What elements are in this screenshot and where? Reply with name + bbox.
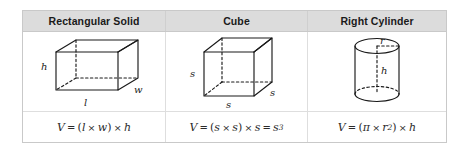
formula-lhs: V bbox=[57, 121, 65, 134]
formula-term-h: h bbox=[409, 121, 416, 134]
volume-formulas-figure: Rectangular Solid Cube Right Cylinder bbox=[0, 0, 463, 152]
formula-times-2: × bbox=[399, 122, 407, 133]
formula-cube: V = ( s × s ) × s = s3 bbox=[165, 112, 307, 142]
formula-result-exponent: 3 bbox=[279, 123, 284, 132]
label-w: w bbox=[134, 84, 143, 95]
header-right-cylinder: Right Cylinder bbox=[307, 11, 446, 31]
label-l: l bbox=[84, 97, 87, 108]
label-s-width: s bbox=[226, 99, 231, 110]
cube-diagram: s s s bbox=[182, 34, 292, 110]
volume-formulas-table: Rectangular Solid Cube Right Cylinder bbox=[22, 10, 447, 143]
label-h: h bbox=[41, 61, 47, 72]
figure-cell-right-cylinder: r h bbox=[307, 32, 446, 111]
label-h-cylinder: h bbox=[381, 65, 387, 76]
formula-equals-2: = bbox=[263, 122, 271, 133]
rectangular-prism-diagram: h l w bbox=[34, 36, 154, 108]
header-cube: Cube bbox=[165, 11, 307, 31]
formula-right-cylinder: V = ( π × r2 ) × h bbox=[307, 112, 446, 142]
formula-term-c: h bbox=[124, 121, 131, 134]
formula-times-1: × bbox=[222, 122, 230, 133]
formula-term-pi: π bbox=[363, 121, 370, 134]
formula-times-2: × bbox=[244, 122, 252, 133]
cylinder-diagram: r h bbox=[331, 34, 423, 110]
table-header-row: Rectangular Solid Cube Right Cylinder bbox=[23, 11, 446, 32]
formula-term-b: w bbox=[98, 121, 107, 134]
formula-times-1: × bbox=[372, 122, 380, 133]
table-figure-row: h l w bbox=[23, 32, 446, 112]
header-rectangular-solid: Rectangular Solid bbox=[23, 11, 165, 31]
formula-times-2: × bbox=[114, 122, 122, 133]
table-formula-row: V = ( l × w ) × h V = bbox=[23, 112, 446, 142]
label-r: r bbox=[380, 35, 386, 46]
formula-equals: = bbox=[67, 122, 75, 133]
formula-equals: = bbox=[199, 122, 207, 133]
formula-equals: = bbox=[348, 122, 356, 133]
formula-lhs: V bbox=[338, 121, 346, 134]
formula-times-1: × bbox=[88, 122, 96, 133]
label-s-height: s bbox=[190, 68, 195, 79]
label-s-depth: s bbox=[270, 87, 275, 98]
formula-rectangular-solid: V = ( l × w ) × h bbox=[23, 112, 165, 142]
figure-cell-cube: s s s bbox=[165, 32, 307, 111]
figure-cell-rectangular-solid: h l w bbox=[23, 32, 165, 111]
formula-lhs: V bbox=[189, 121, 197, 134]
